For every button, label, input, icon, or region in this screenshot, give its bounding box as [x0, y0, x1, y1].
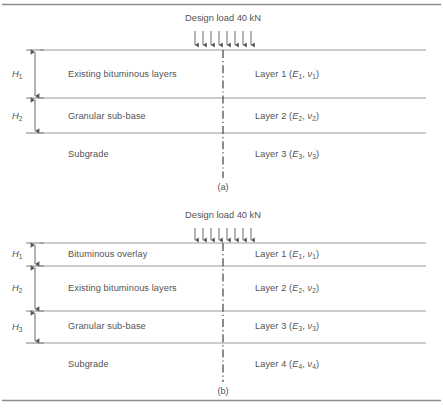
dimension-subscript: 2 — [19, 115, 23, 122]
load-title-a: Design load 40 kN — [185, 14, 261, 23]
dimension-subscript: 3 — [19, 326, 23, 333]
modulus-subscript: 2 — [298, 287, 302, 294]
modulus-subscript: 1 — [298, 73, 302, 80]
layer-name-a-1: Existing bituminous layers — [68, 70, 177, 79]
poisson-subscript: 2 — [312, 115, 316, 122]
layer-suffix: ) — [316, 321, 319, 331]
caption-b: (b) — [217, 387, 228, 396]
layer-prefix: Layer 1 ( — [255, 249, 292, 259]
poisson-subscript: 1 — [312, 253, 316, 260]
layer-name-b-4: Subgrade — [68, 360, 109, 369]
layer-suffix: ) — [316, 149, 319, 159]
dimension-symbol: H — [12, 110, 19, 121]
modulus-subscript: 1 — [298, 253, 302, 260]
layer-suffix: ) — [316, 69, 319, 79]
poisson-subscript: 3 — [312, 325, 316, 332]
dimension-subscript: 2 — [19, 287, 23, 294]
dimension-subscript: 1 — [19, 73, 23, 80]
layer-name-b-2: Existing bituminous layers — [68, 284, 177, 293]
dimension-label-b-h2: H2 — [12, 283, 22, 293]
load-arrows-b — [195, 228, 251, 240]
layer-prefix: Layer 2 ( — [255, 283, 292, 293]
layer-properties-b-2: Layer 2 (E2, ν2) — [255, 284, 319, 293]
modulus-subscript: 3 — [298, 325, 302, 332]
poisson-subscript: 2 — [312, 287, 316, 294]
layer-suffix: ) — [316, 249, 319, 259]
layer-name-b-3: Granular sub-base — [68, 322, 146, 331]
layer-name-a-3: Subgrade — [68, 150, 109, 159]
figure-vector-canvas — [0, 0, 443, 408]
layer-prefix: Layer 1 ( — [255, 69, 292, 79]
modulus-subscript: 4 — [298, 363, 302, 370]
layer-suffix: ) — [316, 359, 319, 369]
dimension-label-a-h1: H1 — [12, 69, 22, 79]
layer-properties-a-2: Layer 2 (E2, ν2) — [255, 112, 319, 121]
layer-suffix: ) — [316, 283, 319, 293]
load-title-b: Design load 40 kN — [185, 211, 261, 220]
layer-prefix: Layer 3 ( — [255, 321, 292, 331]
dimension-subscript: 1 — [19, 253, 23, 260]
dimension-symbol: H — [12, 321, 19, 332]
modulus-subscript: 2 — [298, 115, 302, 122]
layer-properties-b-1: Layer 1 (E1, ν1) — [255, 250, 319, 259]
poisson-subscript: 4 — [312, 363, 316, 370]
dimension-symbol: H — [12, 68, 19, 79]
figure-border-rules — [2, 5, 441, 401]
layer-properties-a-1: Layer 1 (E1, ν1) — [255, 70, 319, 79]
layer-name-a-2: Granular sub-base — [68, 112, 146, 121]
poisson-subscript: 3 — [312, 153, 316, 160]
load-arrows-a — [195, 31, 251, 45]
layer-properties-b-4: Layer 4 (E4, ν4) — [255, 360, 319, 369]
dimension-label-b-h1: H1 — [12, 249, 22, 259]
dimension-symbol: H — [12, 282, 19, 293]
layer-prefix: Layer 2 ( — [255, 111, 292, 121]
dimension-symbol: H — [12, 248, 19, 259]
dimension-label-b-h3: H3 — [12, 322, 22, 332]
layer-prefix: Layer 3 ( — [255, 149, 292, 159]
layer-properties-b-3: Layer 3 (E3, ν3) — [255, 322, 319, 331]
layer-name-b-1: Bituminous overlay — [68, 250, 147, 259]
layer-suffix: ) — [316, 111, 319, 121]
caption-a: (a) — [217, 183, 228, 192]
dimension-label-a-h2: H2 — [12, 111, 22, 121]
poisson-subscript: 1 — [312, 73, 316, 80]
pavement-layer-figure: Design load 40 kN H1 H2 Existing bitumin… — [0, 0, 443, 408]
layer-properties-a-3: Layer 3 (E3, ν3) — [255, 150, 319, 159]
modulus-subscript: 3 — [298, 153, 302, 160]
layer-prefix: Layer 4 ( — [255, 359, 292, 369]
